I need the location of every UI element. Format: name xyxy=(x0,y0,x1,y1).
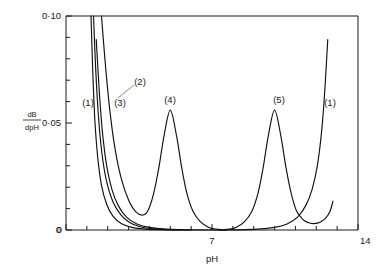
y-tick-label-0: 0 xyxy=(56,224,61,235)
plot-frame xyxy=(66,16,358,230)
curve-5 xyxy=(218,110,333,230)
x-axis-title: pH xyxy=(206,253,218,264)
x-tick-label-14: 14 xyxy=(360,235,371,246)
curve-3 xyxy=(94,16,192,230)
curve-label-2: (2) xyxy=(134,76,146,87)
curve-label-4: (4) xyxy=(164,94,176,105)
y-axis-title: dB dpH xyxy=(23,110,41,132)
y-tick-label-010: 0·10 xyxy=(42,10,61,21)
chart-canvas: 0 7 14 0 0·05 0·10 pH dB dpH (1) (2) (3)… xyxy=(0,0,384,268)
data-curves xyxy=(91,16,333,230)
curve-label-1-right: (1) xyxy=(324,97,336,108)
curve-label-1-left: (1) xyxy=(82,97,94,108)
y-axis-title-numerator: dB xyxy=(27,110,36,119)
x-axis-ticks xyxy=(66,224,358,230)
y-axis-ticks xyxy=(66,16,72,230)
y-tick-label-005: 0·05 xyxy=(42,117,61,128)
x-tick-label-7: 7 xyxy=(209,235,214,246)
y-axis-title-denominator: dpH xyxy=(25,123,39,132)
curve-label-5: (5) xyxy=(273,94,285,105)
curve-4 xyxy=(101,16,226,230)
curve-label-3: (3) xyxy=(114,97,126,108)
buffer-capacity-figure: 0 7 14 0 0·05 0·10 pH dB dpH (1) (2) (3)… xyxy=(0,0,384,268)
